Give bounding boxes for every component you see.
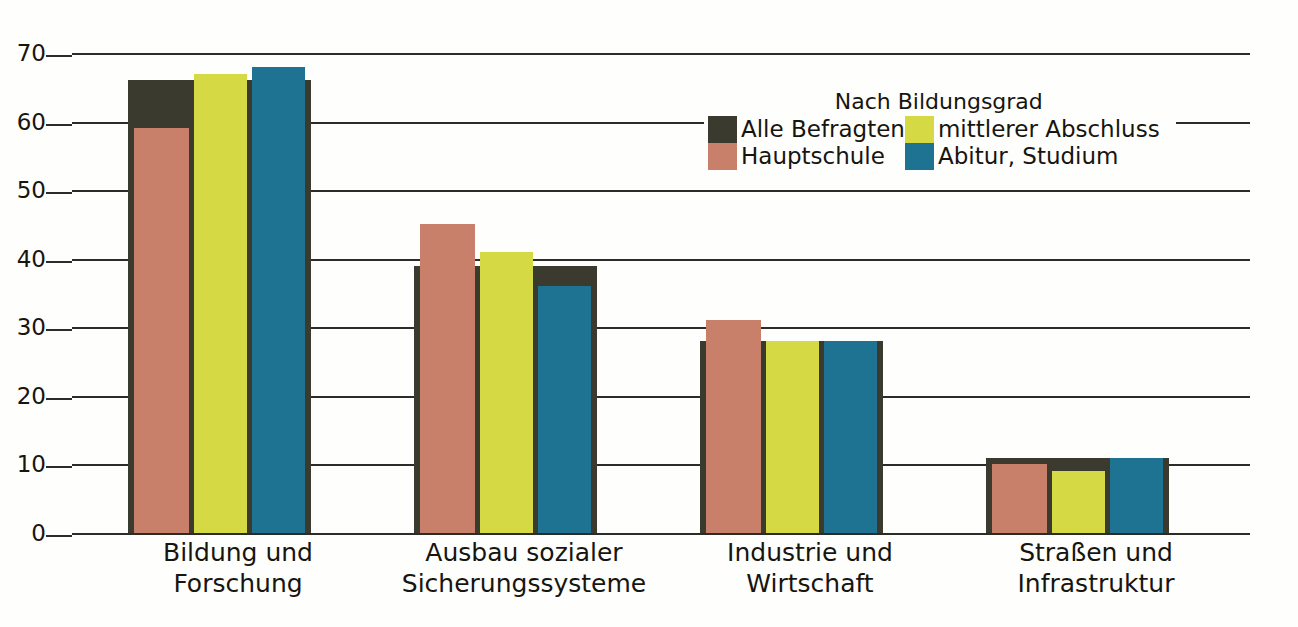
all-respondents-swatch [708, 116, 737, 143]
bar-hauptschule[interactable] [706, 320, 761, 533]
bar-hauptschule[interactable] [992, 464, 1047, 533]
y-tick-label-50: 50 [17, 177, 46, 203]
legend-label-abitur-studium: Abitur, Studium [935, 143, 1170, 170]
bar-mittlerer-abschluss[interactable] [480, 252, 533, 533]
legend-label-hauptschule: Hauptschule [738, 143, 905, 170]
bar-abitur-studium[interactable] [1110, 458, 1163, 533]
y-tick-label-20: 20 [17, 383, 46, 409]
bar-abitur-studium[interactable] [824, 341, 877, 533]
y-tick-label-60: 60 [17, 109, 46, 135]
legend-label-alle-befragten: Alle Befragten [738, 116, 905, 143]
legend: Nach Bildungsgrad Alle Befragten mittler… [704, 88, 1174, 172]
y-tick-label-70: 70 [17, 40, 46, 66]
gridline-0 [72, 533, 1250, 535]
y-axis-labels: 0 10 20 30 40 50 60 70 [0, 53, 46, 533]
bar-hauptschule[interactable] [134, 128, 189, 533]
hauptschule-swatch [708, 143, 737, 170]
bar-mittlerer-abschluss[interactable] [194, 74, 247, 533]
bar-hauptschule[interactable] [420, 224, 475, 533]
y-tick-label-10: 10 [17, 451, 46, 477]
bar-group-ausbau-sozialer-sicherungssysteme [414, 53, 597, 533]
gridline-60-right [1176, 122, 1250, 124]
abitur-studium-swatch [905, 143, 934, 170]
legend-entries: Alle Befragten mittlerer Abschluss Haupt… [708, 116, 1170, 170]
bar-chart: 0 10 20 30 40 50 60 70 [0, 0, 1298, 627]
y-tick-label-30: 30 [17, 314, 46, 340]
legend-label-mittlerer-abschluss: mittlerer Abschluss [935, 116, 1170, 143]
bar-mittlerer-abschluss[interactable] [766, 341, 819, 533]
category-label-strassen-und-infrastruktur: Straßen und Infrastruktur [896, 538, 1296, 599]
y-tick-label-40: 40 [17, 246, 46, 272]
legend-title: Nach Bildungsgrad [708, 90, 1170, 113]
mittlerer-abschluss-swatch [905, 116, 934, 143]
bar-abitur-studium[interactable] [538, 286, 591, 533]
bar-mittlerer-abschluss[interactable] [1052, 471, 1105, 533]
bar-group-bildung-und-forschung [128, 53, 311, 533]
bar-abitur-studium[interactable] [252, 67, 305, 533]
